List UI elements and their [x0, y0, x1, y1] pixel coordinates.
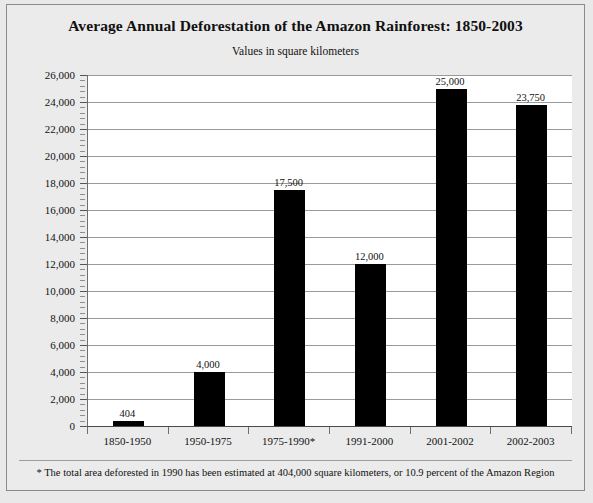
bar-value-label: 404 — [87, 408, 168, 419]
y-axis-minor-tick — [80, 410, 85, 411]
gridline — [88, 210, 572, 211]
y-axis-minor-tick — [80, 194, 85, 195]
x-axis-label: 1850-1950 — [87, 435, 168, 447]
gridline — [88, 237, 572, 238]
y-axis-label: 6,000 — [23, 340, 75, 351]
y-axis-minor-tick — [80, 118, 85, 119]
bar — [113, 421, 144, 426]
y-axis-tick — [80, 264, 87, 265]
bar — [516, 105, 547, 426]
x-axis-tick — [490, 427, 491, 434]
y-axis-minor-tick — [80, 269, 85, 270]
y-axis-tick — [80, 129, 87, 130]
y-axis-label: 20,000 — [23, 151, 75, 162]
y-axis-minor-tick — [80, 205, 85, 206]
y-axis-minor-tick — [80, 329, 85, 330]
gridline — [88, 264, 572, 265]
x-axis-tick — [410, 427, 411, 434]
y-axis-minor-tick — [80, 188, 85, 189]
y-axis-tick — [80, 237, 87, 238]
x-axis-label: 2001-2002 — [410, 435, 491, 447]
y-axis-minor-tick — [80, 86, 85, 87]
x-axis-tick — [248, 427, 249, 434]
gridline — [88, 156, 572, 157]
y-axis-label: 16,000 — [23, 205, 75, 216]
x-axis-tick — [571, 427, 572, 434]
chart-title: Average Annual Deforestation of the Amaz… — [7, 17, 584, 35]
y-axis-tick — [80, 372, 87, 373]
x-axis-tick — [87, 427, 88, 434]
y-axis-minor-tick — [80, 415, 85, 416]
y-axis-minor-tick — [80, 145, 85, 146]
y-axis-minor-tick — [80, 226, 85, 227]
y-axis-minor-tick — [80, 232, 85, 233]
footnote: * The total area deforested in 1990 has … — [7, 467, 584, 478]
y-axis-minor-tick — [80, 253, 85, 254]
y-axis-minor-tick — [80, 313, 85, 314]
chart-subtitle: Values in square kilometers — [7, 45, 584, 57]
x-axis-label: 1975-1990* — [248, 435, 329, 447]
y-axis-minor-tick — [80, 302, 85, 303]
bar — [436, 89, 467, 427]
gridline — [88, 372, 572, 373]
y-axis-minor-tick — [80, 80, 85, 81]
y-axis-label: 14,000 — [23, 232, 75, 243]
y-axis-minor-tick — [80, 280, 85, 281]
footnote-divider — [19, 460, 572, 461]
bar-value-label: 12,000 — [329, 251, 410, 262]
bar — [355, 264, 386, 426]
y-axis-tick — [80, 210, 87, 211]
gridline — [88, 318, 572, 319]
y-axis-minor-tick — [80, 172, 85, 173]
gridline — [88, 345, 572, 346]
y-axis-minor-tick — [80, 286, 85, 287]
y-axis-minor-tick — [80, 421, 85, 422]
y-axis-minor-tick — [80, 404, 85, 405]
gridline — [88, 291, 572, 292]
y-axis-minor-tick — [80, 178, 85, 179]
y-axis-label: 12,000 — [23, 259, 75, 270]
bar — [194, 372, 225, 426]
y-axis-minor-tick — [80, 259, 85, 260]
y-axis-minor-tick — [80, 361, 85, 362]
bar-value-label: 17,500 — [248, 177, 329, 188]
y-axis-minor-tick — [80, 334, 85, 335]
y-axis-minor-tick — [80, 134, 85, 135]
y-axis-label: 0 — [23, 421, 75, 432]
gridline — [88, 75, 572, 76]
gridline — [88, 183, 572, 184]
bar-value-label: 23,750 — [490, 92, 571, 103]
y-axis-label: 18,000 — [23, 178, 75, 189]
y-axis-label: 4,000 — [23, 367, 75, 378]
x-axis-tick — [168, 427, 169, 434]
y-axis-minor-tick — [80, 356, 85, 357]
y-axis-tick — [80, 426, 87, 427]
y-axis-minor-tick — [80, 97, 85, 98]
y-axis-tick — [80, 75, 87, 76]
y-axis-label: 10,000 — [23, 286, 75, 297]
y-axis-minor-tick — [80, 140, 85, 141]
y-axis-minor-tick — [80, 151, 85, 152]
y-axis-tick — [80, 399, 87, 400]
gridline — [88, 399, 572, 400]
y-axis-minor-tick — [80, 388, 85, 389]
y-axis-tick — [80, 183, 87, 184]
y-axis-minor-tick — [80, 307, 85, 308]
y-axis-label: 24,000 — [23, 97, 75, 108]
y-axis-label: 2,000 — [23, 394, 75, 405]
y-axis-tick — [80, 102, 87, 103]
y-axis-minor-tick — [80, 161, 85, 162]
gridline — [88, 129, 572, 130]
bar-value-label: 4,000 — [168, 359, 249, 370]
y-axis-minor-tick — [80, 350, 85, 351]
y-axis-minor-tick — [80, 340, 85, 341]
y-axis-minor-tick — [80, 215, 85, 216]
y-axis-tick — [80, 318, 87, 319]
y-axis-minor-tick — [80, 113, 85, 114]
y-axis-minor-tick — [80, 367, 85, 368]
bar — [274, 190, 305, 426]
y-axis-minor-tick — [80, 323, 85, 324]
y-axis-minor-tick — [80, 107, 85, 108]
y-axis-minor-tick — [80, 394, 85, 395]
bar-value-label: 25,000 — [410, 76, 491, 87]
